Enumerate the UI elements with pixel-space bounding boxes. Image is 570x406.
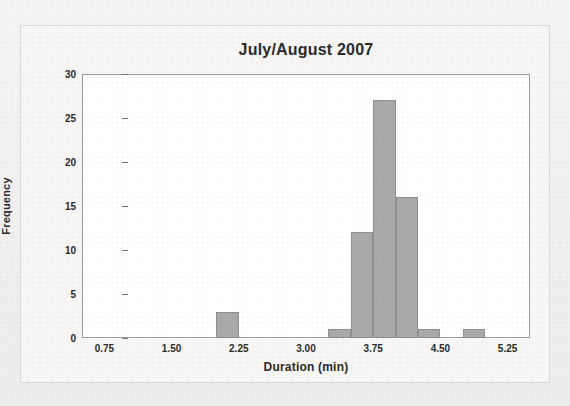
x-axis-tick-label: 2.25 — [229, 343, 248, 354]
histogram-bar — [396, 197, 418, 338]
y-axis-tick-label: 30 — [65, 69, 76, 80]
histogram-bar — [418, 329, 440, 338]
x-axis-tick-label: 5.25 — [498, 343, 517, 354]
y-axis-tick-mark — [122, 206, 128, 207]
x-axis-tick-label: 3.00 — [296, 343, 315, 354]
y-axis-tick-label: 15 — [65, 201, 76, 212]
y-axis-tick-mark — [122, 250, 128, 251]
histogram-bar — [328, 329, 350, 338]
chart-title: July/August 2007 — [82, 41, 530, 59]
x-axis-tick-label: 4.50 — [431, 343, 450, 354]
y-axis-tick-labels: 051015202530 — [46, 74, 76, 338]
x-axis-tick-label: 0.75 — [95, 343, 114, 354]
x-axis-tick-label: 1.50 — [162, 343, 181, 354]
y-axis-tick-mark — [122, 338, 128, 339]
y-axis-tick-label: 5 — [70, 289, 76, 300]
y-axis-tick-mark — [122, 118, 128, 119]
y-axis-tick-mark — [122, 74, 128, 75]
y-axis-tick-mark — [122, 162, 128, 163]
y-axis-tick-label: 20 — [65, 157, 76, 168]
histogram-bars — [82, 74, 530, 338]
y-axis-tick-label: 10 — [65, 245, 76, 256]
y-axis-title: Frequency — [0, 74, 18, 338]
histogram-bar — [216, 312, 238, 338]
histogram-bar — [373, 100, 395, 338]
histogram-bar — [351, 232, 373, 338]
histogram-bar — [463, 329, 485, 338]
y-axis-tick-label: 25 — [65, 113, 76, 124]
y-axis-tick-mark — [122, 294, 128, 295]
x-axis-tick-labels: 0.751.502.253.003.754.505.25 — [82, 343, 530, 359]
x-axis-tick-label: 3.75 — [363, 343, 382, 354]
x-axis-title: Duration (min) — [82, 360, 530, 374]
y-axis-tick-label: 0 — [70, 333, 76, 344]
